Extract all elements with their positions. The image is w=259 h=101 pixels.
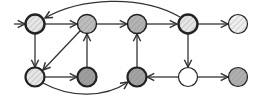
node-j: [229, 68, 248, 87]
edge-d-a: [45, 1, 180, 18]
node-a: [26, 15, 45, 34]
node-e: [229, 15, 248, 34]
node-c: [128, 15, 147, 34]
node-i: [179, 68, 198, 87]
node-f: [26, 68, 45, 87]
edge-b-f: [43, 31, 80, 70]
graph-diagram: [0, 0, 259, 101]
node-h: [128, 68, 147, 87]
node-d: [179, 15, 198, 34]
node-g: [78, 68, 97, 87]
node-b: [78, 15, 97, 34]
